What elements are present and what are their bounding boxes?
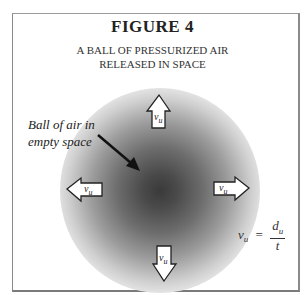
arrow-down-label: vu (159, 252, 167, 266)
arrow-right-label: vu (219, 182, 227, 196)
formula-fraction: du t (270, 219, 285, 253)
formula-lhs-sub: u (244, 234, 249, 244)
formula-denominator: t (270, 239, 285, 253)
velocity-formula: vu = du t (238, 219, 285, 253)
arrow-left-label: vu (84, 183, 92, 197)
formula-numerator: du (270, 219, 285, 239)
annotation-pointer-icon (98, 135, 140, 171)
arrow-up-label: vu (154, 111, 162, 125)
formula-equals: = (256, 227, 263, 242)
